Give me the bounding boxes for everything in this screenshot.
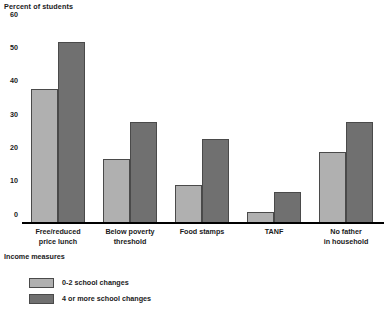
bar-chart: Percent of students 0102030405060 Free/r… — [0, 0, 388, 311]
x-tick-label: TANF — [238, 227, 310, 246]
y-tick-label: 10 — [10, 178, 18, 185]
legend-label: 0-2 school changes — [62, 278, 129, 287]
bar-group — [166, 22, 238, 222]
bar-group — [22, 22, 94, 222]
bar-series-0[interactable] — [247, 212, 274, 222]
bar-group — [310, 22, 382, 222]
bar-series-1[interactable] — [130, 122, 157, 222]
y-tick-label: 30 — [10, 111, 18, 118]
x-axis-title: Income measures — [4, 252, 65, 261]
x-tick-label: Food stamps — [166, 227, 238, 246]
legend-swatch-icon — [29, 278, 54, 288]
bar-series-1[interactable] — [274, 192, 301, 222]
bar-group — [238, 22, 310, 222]
y-tick-label: 20 — [10, 145, 18, 152]
legend-item[interactable]: 0-2 school changes — [29, 276, 151, 289]
bar-groups — [22, 22, 382, 222]
bar-series-1[interactable] — [346, 122, 373, 222]
bar-series-1[interactable] — [202, 139, 229, 222]
legend-item[interactable]: 4 or more school changes — [29, 292, 151, 305]
bar-series-0[interactable] — [175, 185, 202, 222]
bar-series-0[interactable] — [319, 152, 346, 222]
y-tick-label: 60 — [10, 11, 18, 18]
plot-area: 0102030405060 — [22, 22, 382, 222]
bar-series-0[interactable] — [31, 89, 58, 222]
legend: 0-2 school changes4 or more school chang… — [29, 276, 151, 308]
bar-series-0[interactable] — [103, 159, 130, 222]
y-tick-label: 50 — [10, 45, 18, 52]
y-tick-label: 40 — [10, 78, 18, 85]
bar-group — [94, 22, 166, 222]
x-tick-label: Below poverty threshold — [94, 227, 166, 246]
x-tick-label: No father in household — [310, 227, 382, 246]
legend-label: 4 or more school changes — [62, 294, 151, 303]
x-axis-line — [22, 222, 384, 224]
bar-series-1[interactable] — [58, 42, 85, 222]
x-axis-labels: Free/reduced price lunchBelow poverty th… — [22, 227, 382, 246]
legend-swatch-icon — [29, 294, 54, 304]
y-tick-label: 0 — [14, 211, 18, 218]
x-tick-label: Free/reduced price lunch — [22, 227, 94, 246]
